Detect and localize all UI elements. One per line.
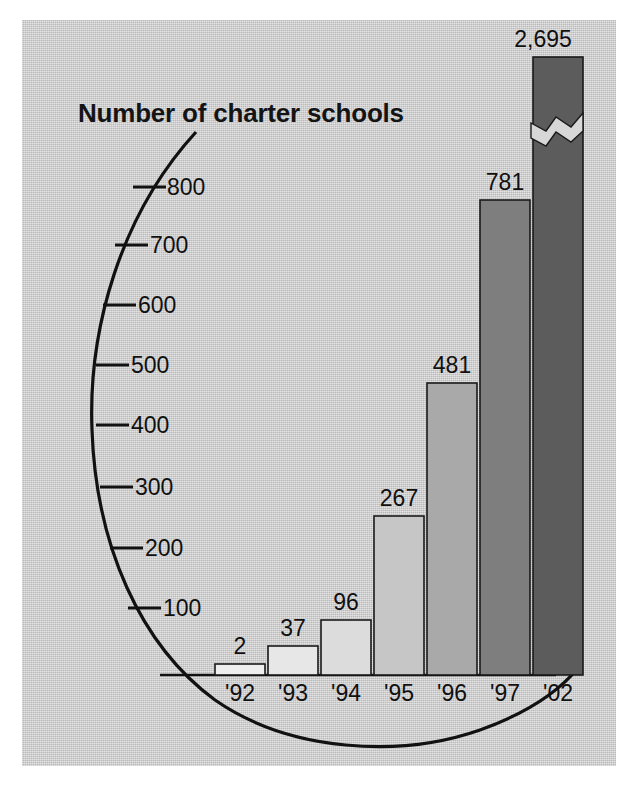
ytick-label-200: 200: [145, 535, 183, 562]
chart-figure: Number of charter schools 800 700 600 50…: [0, 0, 634, 791]
bar-value-96: 481: [427, 352, 477, 379]
bar-value-97: 781: [480, 169, 530, 196]
ytick-label-700: 700: [150, 232, 188, 259]
bar-97: [480, 200, 530, 675]
bar-value-02: 2,695: [503, 26, 583, 53]
bar-value-93: 37: [268, 615, 318, 642]
bar-92: [215, 664, 265, 675]
chart-title: Number of charter schools: [78, 98, 404, 129]
ytick-label-400: 400: [131, 412, 169, 439]
xtick-label-97: '97: [476, 680, 534, 707]
bars-group: [215, 57, 583, 675]
xtick-label-96: '96: [423, 680, 481, 707]
ytick-label-600: 600: [138, 292, 176, 319]
bar-93: [268, 646, 318, 675]
ytick-label-500: 500: [131, 352, 169, 379]
bar-value-92: 2: [215, 633, 265, 660]
ytick-label-300: 300: [135, 474, 173, 501]
bar-value-95: 267: [374, 485, 424, 512]
ytick-label-800: 800: [167, 174, 205, 201]
bar-96: [427, 383, 477, 675]
xtick-label-92: '92: [211, 680, 269, 707]
xtick-label-95: '95: [370, 680, 428, 707]
ytick-label-100: 100: [163, 595, 201, 622]
xtick-label-94: '94: [317, 680, 375, 707]
xtick-label-93: '93: [264, 680, 322, 707]
bar-95: [374, 516, 424, 675]
bar-02: [533, 57, 583, 675]
xtick-label-02: '02: [529, 680, 587, 707]
bar-value-94: 96: [321, 589, 371, 616]
bar-94: [321, 620, 371, 675]
